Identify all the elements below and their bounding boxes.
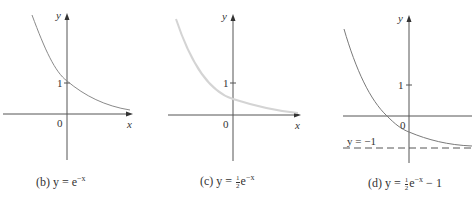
- panel-d-asymptote-label: y = −1: [347, 135, 376, 147]
- panel-c-y-label: y: [221, 10, 227, 22]
- panel-b-origin-label: 0: [57, 117, 63, 129]
- panel-b-y-label: y: [55, 9, 61, 21]
- panel-d-caption-suffix: − 1: [423, 176, 442, 190]
- panel-c-tick-label: 1: [223, 77, 229, 89]
- panel-c-y-arrow-icon: [231, 14, 236, 21]
- panel-b-x-arrow-icon: [126, 112, 133, 117]
- panel-d-caption-fraction: 12: [405, 177, 409, 192]
- panel-d-tick-label: 1: [398, 79, 404, 91]
- panel-d-caption: (d) y = 12e−x − 1: [368, 175, 442, 192]
- panel-c-caption-text: (c) y =: [200, 174, 235, 188]
- panel-b-caption: (b) y = e−x: [36, 174, 86, 190]
- panel-c-caption: (c) y = 12e−x: [200, 173, 254, 190]
- panel-d-caption-exponent: −x: [415, 175, 424, 184]
- panel-b-caption-exponent: −x: [77, 174, 86, 183]
- panel-b-y-arrow-icon: [65, 13, 70, 20]
- panel-c-x-label: x: [294, 119, 300, 131]
- panel-d-caption-text: (d) y =: [368, 176, 404, 190]
- panel-d-y-arrow-icon: [407, 15, 412, 22]
- panel-c-graph: y x 0 1: [168, 10, 301, 161]
- panel-b-tick-label: 1: [57, 77, 63, 89]
- panel-c-curve: [176, 19, 298, 113]
- panel-d-y-label: y: [397, 12, 403, 24]
- panel-d-curve: [344, 29, 472, 146]
- panel-c-origin-label: 0: [223, 118, 229, 130]
- panel-b-curve: [32, 15, 130, 110]
- panel-b-caption-text: (b) y = e: [36, 175, 77, 189]
- panel-d-origin-label: 0: [400, 119, 406, 131]
- panel-b-graph: y x 0 1: [3, 9, 133, 160]
- panel-c-caption-fraction: 12: [236, 175, 240, 190]
- panel-c-caption-exponent: −x: [246, 173, 255, 182]
- panel-b-x-label: x: [126, 118, 132, 130]
- panel-d-graph: y 0 1 y = −1: [343, 12, 472, 163]
